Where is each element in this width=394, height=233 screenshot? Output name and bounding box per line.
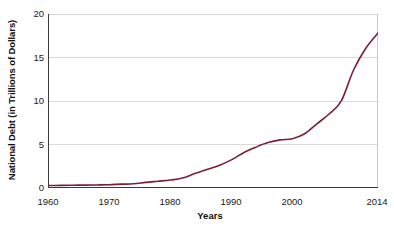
x-axis-title: Years <box>40 210 380 221</box>
x-tick-label-2014: 2014 <box>366 196 387 207</box>
x-tick-label-2000: 2000 <box>281 196 302 207</box>
plot-area <box>48 14 378 188</box>
y-tick-label-5: 5 <box>20 140 44 150</box>
line-chart-svg <box>48 14 378 188</box>
data-series-line <box>48 33 378 186</box>
y-tick-label-0: 0 <box>20 183 44 193</box>
x-tick-label-1980: 1980 <box>159 196 180 207</box>
y-tick-label-10: 10 <box>20 96 44 106</box>
gridlines <box>48 15 378 145</box>
y-tick-label-15: 15 <box>20 53 44 63</box>
x-tick-label-1970: 1970 <box>98 196 119 207</box>
x-tick-label-1990: 1990 <box>220 196 241 207</box>
y-tick-label-20: 20 <box>20 9 44 19</box>
chart-figure: National Debt (in Trillions of Dollars) … <box>0 0 394 233</box>
x-tick-label-1960: 1960 <box>37 196 58 207</box>
